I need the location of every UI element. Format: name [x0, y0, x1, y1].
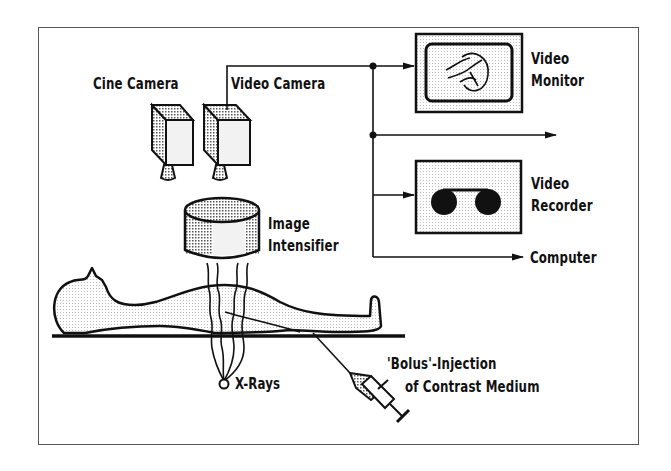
video-recorder-icon [416, 161, 521, 233]
video-recorder-label-line2: Recorder [531, 197, 593, 215]
junction-dot [370, 132, 377, 139]
x-rays-label: X-Rays [235, 375, 280, 393]
diagram-canvas: Cine Camera Video Camera Video Monitor V… [0, 0, 671, 471]
video-recorder-label-line1: Video [531, 175, 569, 193]
image-intensifier-icon [185, 198, 259, 258]
computer-label: Computer [530, 249, 597, 267]
x-ray-source-icon [220, 380, 229, 389]
syringe-icon [313, 333, 409, 422]
cine-camera-icon [152, 105, 193, 180]
video-monitor-label-line2: Monitor [531, 72, 584, 90]
video-monitor-label-line1: Video [531, 50, 569, 68]
cine-camera-label: Cine Camera [93, 75, 179, 93]
image-intensifier-label-line1: Image [268, 215, 310, 233]
bolus-label-line1: 'Bolus'-Injection [387, 355, 497, 373]
bolus-label-line2: of Contrast Medium [405, 378, 540, 396]
image-intensifier-label-line2: Intensifier [268, 237, 339, 255]
video-camera-icon [204, 105, 250, 180]
junction-dot [370, 63, 377, 70]
video-camera-label: Video Camera [231, 75, 325, 93]
video-monitor-icon [416, 34, 522, 112]
